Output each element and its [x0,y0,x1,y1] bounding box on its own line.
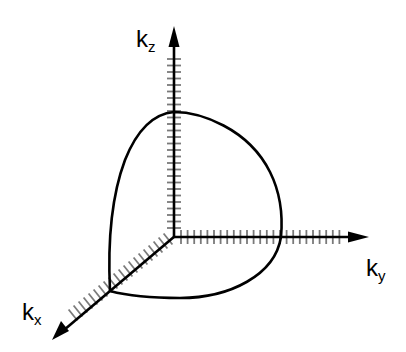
ky-label-subscript: y [378,267,386,284]
kz-label-subscript: z [148,38,156,55]
kx-axis-ticks [69,234,173,321]
kz-arrowhead-icon [169,26,180,47]
kx-label-main: k [22,298,34,325]
ky-arrowhead-icon [348,232,369,243]
ky-label-main: k [366,254,378,281]
kx-axis-line [64,236,175,330]
kz-axis-label: kz [136,27,156,51]
axes-diagram [0,0,406,352]
ky-axis-label: ky [366,256,386,280]
kx-arrowhead-icon [52,321,69,340]
kx-label-subscript: x [34,311,42,328]
kx-axis-label: kx [22,300,42,324]
diagram-canvas: kz ky kx [0,0,406,352]
kz-label-main: k [136,25,148,52]
